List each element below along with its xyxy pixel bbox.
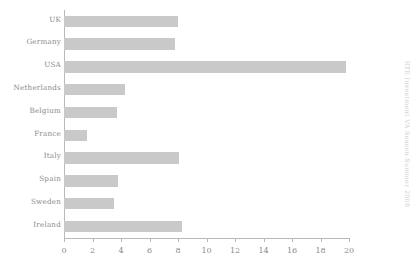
side-caption: RTE Investment VA Season Summer 2008 <box>400 0 414 268</box>
category-label: Sweden <box>31 196 61 207</box>
axis-tick <box>121 238 122 242</box>
bar <box>64 84 125 96</box>
axis-tick-label: 18 <box>309 245 333 256</box>
axis-tick <box>292 238 293 242</box>
bar <box>64 16 178 28</box>
bar <box>64 61 346 73</box>
category-label: UK <box>49 14 61 25</box>
category-label: Belgium <box>29 105 61 116</box>
bar-row: UK <box>64 10 349 33</box>
axis-tick <box>235 238 236 242</box>
axis-tick <box>150 238 151 242</box>
axis-tick <box>321 238 322 242</box>
axis-tick-label: 14 <box>252 245 276 256</box>
axis-tick <box>93 238 94 242</box>
category-label: Italy <box>44 150 61 161</box>
bar <box>64 175 118 187</box>
category-label: Netherlands <box>14 82 61 93</box>
category-label: USA <box>44 59 61 70</box>
category-label: Germany <box>26 36 61 47</box>
bar-row: Spain <box>64 170 349 193</box>
axis-tick-label: 20 <box>337 245 361 256</box>
bar <box>64 107 117 119</box>
bar-chart-figure: UKGermanyUSANetherlandsBelgiumFranceItal… <box>0 0 415 268</box>
bar <box>64 130 87 142</box>
axis-tick-label: 4 <box>109 245 133 256</box>
bar <box>64 221 182 233</box>
axis-tick <box>178 238 179 242</box>
axis-tick-label: 8 <box>166 245 190 256</box>
bar-row: France <box>64 124 349 147</box>
axis-tick-label: 16 <box>280 245 304 256</box>
bar-row: Netherlands <box>64 78 349 101</box>
axis-tick <box>64 238 65 242</box>
bar-row: Germany <box>64 33 349 56</box>
bar-row: USA <box>64 56 349 79</box>
bar-row: Sweden <box>64 192 349 215</box>
category-label: France <box>34 128 61 139</box>
bar-row: Italy <box>64 147 349 170</box>
axis-tick <box>264 238 265 242</box>
bar-row: Belgium <box>64 101 349 124</box>
axis-tick <box>349 238 350 242</box>
axis-tick-label: 6 <box>138 245 162 256</box>
axis-tick <box>207 238 208 242</box>
axis-tick-label: 0 <box>52 245 76 256</box>
axis-tick-label: 10 <box>195 245 219 256</box>
axis-tick-label: 2 <box>81 245 105 256</box>
plot-area: UKGermanyUSANetherlandsBelgiumFranceItal… <box>64 10 349 238</box>
category-label: Ireland <box>33 219 61 230</box>
bar <box>64 198 114 210</box>
bar-row: Ireland <box>64 215 349 238</box>
axis-tick-label: 12 <box>223 245 247 256</box>
category-label: Spain <box>39 173 61 184</box>
side-caption-text: RTE Investment VA Season Summer 2008 <box>403 61 411 208</box>
bar <box>64 38 175 50</box>
bar <box>64 152 179 164</box>
